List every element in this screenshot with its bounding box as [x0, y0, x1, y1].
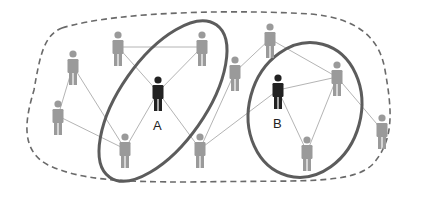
- person-head: [274, 74, 281, 81]
- person-torso: [195, 142, 206, 156]
- person-icon: [68, 50, 79, 85]
- person-torso: [265, 32, 276, 46]
- person-leg: [201, 155, 204, 168]
- person-leg: [119, 53, 122, 66]
- person-leg: [378, 136, 381, 149]
- person-icon: [113, 31, 124, 66]
- person-torso: [230, 65, 241, 79]
- edge-B-n11: [278, 77, 337, 90]
- person-head: [154, 76, 161, 83]
- person-icon-A: [153, 76, 164, 111]
- person-leg: [198, 53, 201, 66]
- person-leg: [308, 158, 311, 171]
- person-icon: [120, 133, 131, 168]
- person-icon: [197, 31, 208, 66]
- person-torso: [273, 83, 284, 97]
- person-head: [69, 50, 76, 57]
- person-torso: [197, 40, 208, 54]
- social-network-diagram: A B: [0, 0, 421, 197]
- person-leg: [54, 122, 57, 135]
- person-head: [114, 31, 121, 38]
- person-leg: [279, 96, 282, 109]
- person-head: [378, 114, 385, 121]
- person-torso: [68, 59, 79, 73]
- person-leg: [74, 72, 77, 85]
- edge-A-n7: [158, 92, 200, 149]
- person-icon: [265, 23, 276, 58]
- person-leg: [121, 155, 124, 168]
- person-head: [266, 23, 273, 30]
- person-head: [196, 133, 203, 140]
- person-leg: [59, 122, 62, 135]
- person-torso: [332, 70, 343, 84]
- person-torso: [53, 109, 64, 123]
- person-leg: [383, 136, 386, 149]
- person-icon: [332, 61, 343, 96]
- person-leg: [159, 98, 162, 111]
- community-boundary: [27, 12, 390, 182]
- person-head: [231, 56, 238, 63]
- person-torso: [113, 40, 124, 54]
- person-leg: [303, 158, 306, 171]
- person-leg: [274, 96, 277, 109]
- edge-n7-B: [200, 90, 278, 149]
- person-head: [198, 31, 205, 38]
- person-leg: [236, 78, 239, 91]
- person-head: [121, 133, 128, 140]
- edge-B-n12: [278, 90, 307, 152]
- label-A: A: [153, 118, 162, 133]
- edge-n3-A: [158, 47, 202, 92]
- person-torso: [153, 85, 164, 99]
- person-icon: [377, 114, 388, 149]
- edge-n2-A: [118, 47, 158, 92]
- person-leg: [266, 45, 269, 58]
- person-icon: [230, 56, 241, 91]
- person-head: [303, 136, 310, 143]
- person-leg: [333, 83, 336, 96]
- person-leg: [69, 72, 72, 85]
- person-head: [54, 100, 61, 107]
- person-leg: [196, 155, 199, 168]
- person-leg: [271, 45, 274, 58]
- person-head: [333, 61, 340, 68]
- person-icon: [53, 100, 64, 135]
- person-leg: [154, 98, 157, 111]
- edge-n11-n12: [307, 77, 337, 152]
- person-torso: [120, 142, 131, 156]
- person-leg: [338, 83, 341, 96]
- person-torso: [302, 145, 313, 159]
- nodes-layer: [53, 23, 388, 171]
- label-B: B: [273, 116, 282, 131]
- person-leg: [203, 53, 206, 66]
- person-icon: [195, 133, 206, 168]
- person-leg: [114, 53, 117, 66]
- person-torso: [377, 123, 388, 137]
- person-leg: [231, 78, 234, 91]
- person-leg: [126, 155, 129, 168]
- edge-n8-n7: [200, 72, 235, 149]
- person-icon-B: [273, 74, 284, 109]
